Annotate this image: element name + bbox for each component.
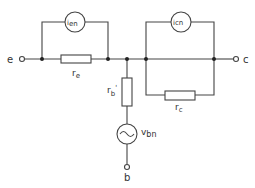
emitter-label: e	[7, 54, 13, 65]
i-cn-label: icn	[173, 19, 183, 27]
r-b-prime-label: rb'	[107, 84, 117, 98]
r-e-label: re	[72, 68, 80, 80]
r-c-label: rc	[175, 102, 183, 114]
collector-label: c	[243, 54, 249, 65]
collector-resistor-icon	[165, 91, 195, 100]
base-terminal-icon	[125, 165, 130, 170]
emitter-resistor-icon	[61, 55, 91, 63]
v-bn-label: vbn	[141, 127, 156, 139]
collector-terminal-icon	[234, 57, 239, 62]
circuit-diagram: e c b ien icn re rc rb' vbn	[0, 0, 255, 188]
base-resistor-icon	[122, 78, 132, 106]
base-branch	[117, 59, 137, 164]
emitter-terminal-icon	[20, 57, 25, 62]
base-label: b	[124, 172, 130, 183]
i-en-label: ien	[67, 19, 78, 28]
